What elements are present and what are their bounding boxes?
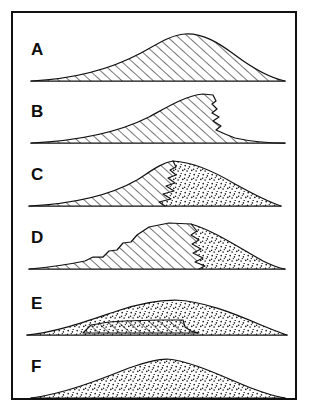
panel-b-section bbox=[13, 83, 299, 147]
panel-c-section bbox=[13, 146, 299, 210]
panel-c: C bbox=[13, 146, 299, 210]
figure-root: A B C bbox=[0, 0, 309, 414]
panel-c-bedrock-fill bbox=[29, 161, 176, 206]
panel-d-section bbox=[13, 209, 299, 273]
panel-e-section bbox=[13, 275, 299, 339]
panel-b: B bbox=[13, 83, 299, 147]
panel-f-regolith-fill bbox=[31, 359, 285, 398]
panel-f: F bbox=[13, 338, 299, 402]
figure-frame: A B C bbox=[11, 11, 297, 400]
panel-a-section bbox=[13, 21, 299, 85]
panel-a-bedrock-fill bbox=[31, 34, 285, 81]
panel-b-bedrock-fill bbox=[31, 94, 285, 143]
panel-e: E bbox=[13, 275, 299, 339]
panel-f-section bbox=[13, 338, 299, 402]
panel-d: D bbox=[13, 209, 299, 273]
panel-d-bedrock-fill bbox=[29, 223, 205, 269]
panel-a: A bbox=[13, 21, 299, 85]
panel-c-debris-fill bbox=[159, 161, 281, 206]
